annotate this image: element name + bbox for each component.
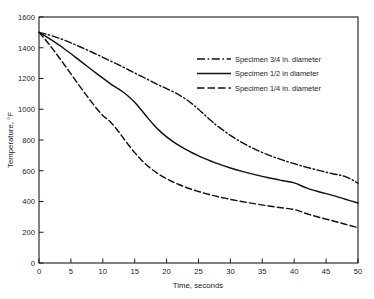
legend-label: Specimen 1/2 in diameter [235, 69, 319, 78]
y-tick-label: 1400 [18, 44, 35, 53]
y-tick-label: 600 [22, 167, 35, 176]
y-tick-label: 1000 [18, 105, 35, 114]
x-tick-label: 25 [194, 267, 202, 276]
x-tick-label: 20 [162, 267, 170, 276]
legend-label: Specimen 1/4 in. diameter [235, 84, 321, 93]
x-tick-label: 5 [69, 267, 73, 276]
chart-canvas: 05101520253035404550 0200400600800100012… [0, 0, 374, 299]
x-axis-label: Time, seconds [173, 281, 224, 290]
chart-legend: Specimen 3/4 in. diameterSpecimen 1/2 in… [197, 55, 321, 93]
y-axis-tick-labels: 02004006008001000120014001600 [18, 13, 35, 268]
x-tick-label: 30 [226, 267, 234, 276]
x-axis-tick-labels: 05101520253035404550 [37, 267, 362, 276]
x-tick-label: 50 [354, 267, 362, 276]
x-tick-label: 35 [258, 267, 266, 276]
y-tick-label: 1200 [18, 74, 35, 83]
y-tick-label: 400 [22, 197, 35, 206]
y-tick-label: 1600 [18, 13, 35, 22]
x-tick-label: 15 [130, 267, 138, 276]
y-tick-label: 200 [22, 228, 35, 237]
x-tick-label: 40 [290, 267, 298, 276]
x-tick-label: 45 [322, 267, 330, 276]
x-tick-label: 10 [99, 267, 107, 276]
y-tick-label: 800 [22, 136, 35, 145]
y-axis-ticks [39, 17, 44, 263]
y-tick-label: 0 [31, 259, 35, 268]
x-axis-ticks [39, 259, 358, 264]
legend-label: Specimen 3/4 in. diameter [235, 55, 321, 64]
y-axis-label: Temperature, °F [6, 112, 15, 168]
plot-frame [39, 17, 358, 263]
cooling-curve-figure: 05101520253035404550 0200400600800100012… [0, 0, 374, 299]
x-tick-label: 0 [37, 267, 41, 276]
